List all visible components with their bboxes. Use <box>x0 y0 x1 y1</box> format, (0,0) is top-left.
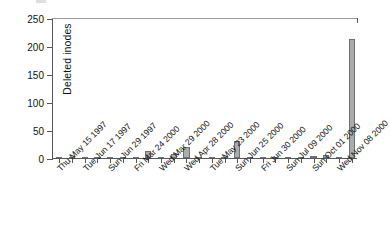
y-axis-title: Deleted inodes <box>61 0 73 119</box>
y-axis-tick-label: 200 <box>27 42 44 53</box>
bar <box>336 157 342 158</box>
plot-top-rule <box>52 18 358 19</box>
y-axis-tick <box>47 131 53 132</box>
bar <box>209 157 215 158</box>
y-axis-tick-label: 100 <box>27 98 44 109</box>
y-axis-tick-label: 250 <box>27 14 44 25</box>
bar <box>310 156 316 158</box>
y-axis-tick <box>47 103 53 104</box>
y-axis-tick <box>47 19 53 20</box>
y-axis-tick <box>47 47 53 48</box>
clipped-top-artifact <box>36 0 46 3</box>
bar <box>133 157 139 158</box>
y-axis-tick <box>47 75 53 76</box>
bar <box>260 157 266 158</box>
y-axis-tick-label: 0 <box>38 154 44 165</box>
bar <box>158 157 164 158</box>
y-axis-tick-label: 50 <box>33 126 44 137</box>
plot-right-cap <box>357 18 358 23</box>
bar <box>82 157 88 158</box>
y-axis-tick-label: 150 <box>27 70 44 81</box>
y-axis-tick <box>47 159 53 160</box>
